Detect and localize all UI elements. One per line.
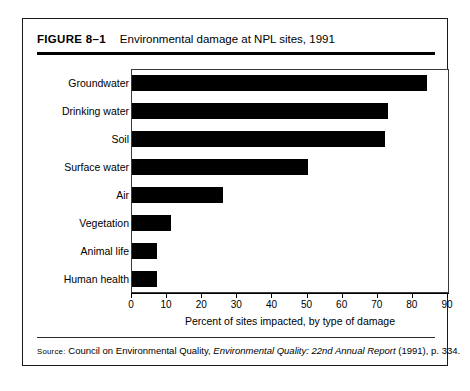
x-tick [166,293,167,298]
bar-row: Drinking water [37,97,449,125]
bar-row: Surface water [37,153,449,181]
bar [132,103,388,119]
category-label: Drinking water [62,105,129,117]
x-axis-title: Percent of sites impacted, by type of da… [131,315,449,327]
x-tick [377,293,378,298]
source-italic-title: Environmental Quality: 22nd Annual Repor… [213,345,395,356]
figure-box: FIGURE 8–1Environmental damage at NPL si… [22,18,448,366]
bar-row: Human health [37,265,449,293]
bar-row: Vegetation [37,209,449,237]
x-tick-label: 0 [128,299,134,310]
header-rule [37,52,435,55]
bar [132,215,171,231]
figure-number: FIGURE 8–1 [37,33,106,45]
x-tick [271,293,272,298]
x-tick-label: 40 [266,299,277,310]
category-label: Groundwater [68,77,129,89]
source-suffix: (1991), p. 334. [396,345,460,356]
x-axis-line [131,293,449,294]
x-tick [342,293,343,298]
bar-row: Animal life [37,237,449,265]
x-tick-label: 70 [371,299,382,310]
category-label: Human health [64,273,129,285]
bar [132,75,427,91]
x-tick [412,293,413,298]
bar [132,131,385,147]
source-label: Source: [37,347,66,356]
category-label: Vegetation [79,217,129,229]
chart-area: GroundwaterDrinking waterSoilSurface wat… [37,63,435,315]
bar [132,159,308,175]
figure-title: Environmental damage at NPL sites, 1991 [120,33,335,45]
source-prefix: Council on Environmental Quality, [66,345,214,356]
bar [132,243,157,259]
x-tick [201,293,202,298]
x-tick-label: 30 [231,299,242,310]
x-tick-label: 60 [336,299,347,310]
x-tick [447,293,448,298]
bar-row: Soil [37,125,449,153]
x-tick [236,293,237,298]
figure-header: FIGURE 8–1Environmental damage at NPL si… [37,29,437,51]
x-tick-label: 90 [441,299,452,310]
source-note: Source: Council on Environmental Quality… [37,345,437,356]
bar-row: Groundwater [37,69,449,97]
x-tick-label: 20 [196,299,207,310]
bar-rows: GroundwaterDrinking waterSoilSurface wat… [37,69,449,293]
category-label: Surface water [64,161,129,173]
bar-row: Air [37,181,449,209]
x-tick [131,293,132,298]
figure-root: FIGURE 8–1Environmental damage at NPL si… [0,0,470,391]
category-label: Soil [111,133,129,145]
x-tick-label: 50 [301,299,312,310]
x-tick-label: 10 [161,299,172,310]
category-label: Animal life [81,245,129,257]
bar [132,187,223,203]
source-rule [37,337,435,338]
x-tick-label: 80 [406,299,417,310]
category-label: Air [116,189,129,201]
bar [132,271,157,287]
x-tick [307,293,308,298]
